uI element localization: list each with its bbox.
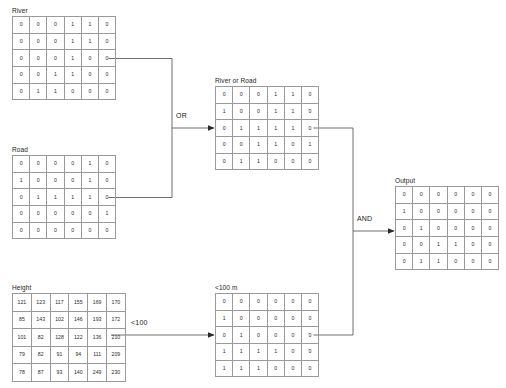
grid-cell: 0 <box>396 253 413 270</box>
grid-cell: 0 <box>447 203 464 220</box>
grid-cell: 249 <box>88 364 107 382</box>
grid-cell: 169 <box>88 294 107 312</box>
grid-cell: 1 <box>233 360 250 377</box>
grid-cell: 0 <box>216 87 233 104</box>
grid-cell: 0 <box>30 156 47 173</box>
grid-cell: 1 <box>250 360 267 377</box>
grid-cell: 1 <box>284 120 301 137</box>
grid-cell: 0 <box>13 33 30 50</box>
grid-cell: 0 <box>301 103 318 120</box>
grid-cell: 1 <box>413 220 430 237</box>
grid-row: 000110 <box>13 33 116 50</box>
grid-cell: 155 <box>69 294 88 312</box>
grid-block-output: Output 000000100000010000001100011000 <box>395 176 499 270</box>
grid-cell: 0 <box>47 156 64 173</box>
grid-cell: 0 <box>464 203 481 220</box>
grid-table-river-or-road: 000110100110011110001101011000 <box>215 86 319 170</box>
grid-cell: 0 <box>250 294 267 311</box>
grid-cell: 0 <box>30 222 47 239</box>
grid-cell: 0 <box>284 327 301 344</box>
grid-cell: 0 <box>64 172 81 189</box>
grid-cell: 1 <box>47 83 64 100</box>
threshold-operator-label: <100 <box>131 318 148 327</box>
grid-cell: 0 <box>233 294 250 311</box>
grid-cell: 0 <box>301 153 318 170</box>
grid-title-river: River <box>12 6 116 15</box>
grid-cell: 0 <box>216 153 233 170</box>
grid-row: 011000 <box>396 253 499 270</box>
grid-cell: 0 <box>481 203 498 220</box>
grid-cell: 0 <box>64 206 81 223</box>
grid-cell: 0 <box>47 172 64 189</box>
grid-cell: 0 <box>98 83 115 100</box>
grid-cell: 102 <box>50 311 69 329</box>
grid-cell: 1 <box>233 120 250 137</box>
grid-cell: 1 <box>98 206 115 223</box>
grid-row: 111100 <box>216 344 319 361</box>
grid-cell: 0 <box>233 137 250 154</box>
grid-cell: 0 <box>13 222 30 239</box>
grid-row: 000010 <box>13 156 116 173</box>
grid-cell: 0 <box>301 327 318 344</box>
grid-cell: 1 <box>267 103 284 120</box>
grid-cell: 0 <box>430 187 447 204</box>
grid-cell: 0 <box>98 172 115 189</box>
grid-row: 10182128122136210 <box>13 329 126 347</box>
grid-cell: 1 <box>267 344 284 361</box>
grid-cell: 0 <box>284 360 301 377</box>
grid-cell: 0 <box>81 50 98 67</box>
grid-cell: 0 <box>98 156 115 173</box>
grid-row: 010000 <box>216 327 319 344</box>
grid-block-below-100m: <100 m 000000100000010000111100111000 <box>215 283 319 377</box>
grid-title-road: Road <box>12 145 116 154</box>
grid-cell: 1 <box>47 67 64 84</box>
grid-cell: 0 <box>413 203 430 220</box>
grid-cell: 78 <box>13 364 32 382</box>
grid-cell: 0 <box>447 220 464 237</box>
grid-cell: 0 <box>396 187 413 204</box>
grid-cell: 0 <box>98 189 115 206</box>
grid-row: 000000 <box>13 222 116 239</box>
grid-cell: 0 <box>301 294 318 311</box>
grid-cell: 117 <box>50 294 69 312</box>
grid-cell: 0 <box>413 237 430 254</box>
grid-cell: 140 <box>69 364 88 382</box>
grid-cell: 1 <box>64 17 81 34</box>
grid-cell: 0 <box>98 33 115 50</box>
grid-cell: 0 <box>396 237 413 254</box>
grid-cell: 0 <box>284 344 301 361</box>
grid-cell: 0 <box>464 220 481 237</box>
grid-cell: 1 <box>81 172 98 189</box>
grid-cell: 0 <box>396 220 413 237</box>
grid-cell: 1 <box>81 17 98 34</box>
grid-cell: 0 <box>233 87 250 104</box>
grid-table-height: 1211231171551691708514310214619317210182… <box>12 293 126 382</box>
grid-cell: 0 <box>481 187 498 204</box>
grid-row: 011110 <box>13 189 116 206</box>
grid-cell: 0 <box>47 33 64 50</box>
grid-row: 000100 <box>13 50 116 67</box>
grid-cell: 111 <box>88 346 107 364</box>
grid-cell: 1 <box>216 360 233 377</box>
grid-block-height: Height 121123117155169170851431021461931… <box>12 283 126 382</box>
grid-row: 001100 <box>396 237 499 254</box>
grid-cell: 1 <box>47 189 64 206</box>
grid-table-road: 000010100010011110000001000000 <box>12 155 116 239</box>
grid-cell: 0 <box>98 67 115 84</box>
grid-cell: 0 <box>267 327 284 344</box>
grid-cell: 0 <box>30 206 47 223</box>
grid-cell: 170 <box>106 294 125 312</box>
and-operator-label: AND <box>357 214 372 223</box>
grid-cell: 172 <box>106 311 125 329</box>
grid-cell: 1 <box>284 103 301 120</box>
grid-cell: 1 <box>233 344 250 361</box>
grid-cell: 1 <box>267 137 284 154</box>
grid-block-river: River 000110000110000100001100011000 <box>12 6 116 100</box>
grid-cell: 0 <box>301 120 318 137</box>
grid-cell: 0 <box>216 120 233 137</box>
grid-cell: 82 <box>31 346 50 364</box>
grid-cell: 0 <box>30 17 47 34</box>
grid-cell: 0 <box>216 294 233 311</box>
grid-cell: 0 <box>47 222 64 239</box>
grid-cell: 1 <box>250 153 267 170</box>
